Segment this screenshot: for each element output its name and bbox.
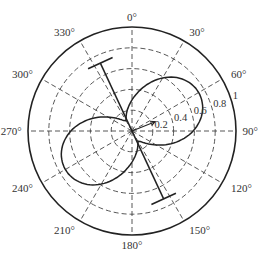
- radial-label: 0.6: [194, 105, 207, 116]
- angle-label: 150°: [189, 224, 210, 236]
- angle-label: 120°: [231, 182, 252, 194]
- radial-label: 0.2: [155, 119, 168, 130]
- angle-label: 210°: [54, 224, 75, 236]
- angle-label: 330°: [54, 26, 75, 38]
- dipole-crossbar-bottom: [151, 193, 176, 204]
- angle-label: 90°: [242, 125, 257, 137]
- angle-label: 300°: [12, 68, 33, 80]
- radial-labels: 0.20.40.60.81: [155, 90, 238, 129]
- radial-label: 0.4: [174, 112, 188, 123]
- direction-arrow: [132, 121, 155, 131]
- angle-label: 270°: [1, 125, 22, 137]
- radial-label: 0.8: [213, 98, 226, 109]
- angle-label: 30°: [189, 26, 204, 38]
- grid-spoke: [42, 131, 132, 183]
- angle-label: 240°: [12, 182, 33, 194]
- dipole-crossbar-top: [88, 57, 113, 68]
- grid-spoke: [42, 79, 132, 131]
- arrow-shaft: [132, 122, 155, 131]
- angle-label: 0°: [127, 11, 137, 23]
- polar-chart: 0°30°60°90°120°150°180°210°240°270°300°3…: [0, 0, 259, 258]
- grid-spoke: [80, 131, 132, 221]
- angle-label: 180°: [122, 239, 143, 251]
- grid-spoke: [132, 79, 222, 131]
- radial-label: 1: [233, 90, 238, 101]
- grid-spoke: [132, 131, 222, 183]
- angle-label: 60°: [231, 68, 246, 80]
